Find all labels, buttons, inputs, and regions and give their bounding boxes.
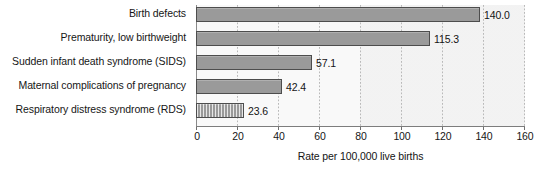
value-label-sids: 57.1 xyxy=(316,58,336,69)
value-label-rds: 23.6 xyxy=(248,106,268,117)
category-label-prematurity: Prematurity, low birthweight xyxy=(0,32,186,43)
gridline-100 xyxy=(401,5,402,127)
tick-label-100: 100 xyxy=(393,130,410,143)
category-label-sids: Sudden infant death syndrome (SIDS) xyxy=(0,56,186,67)
gridline-80 xyxy=(360,5,361,127)
x-axis-title: Rate per 100,000 live births xyxy=(196,150,525,163)
tick-label-0: 0 xyxy=(194,130,200,143)
bar-sids xyxy=(196,55,312,70)
bar-rds xyxy=(196,103,244,118)
gridline-160 xyxy=(524,5,525,127)
category-label-maternal-complications: Maternal complications of pregnancy xyxy=(0,80,186,91)
tick-label-60: 60 xyxy=(314,130,325,143)
gridline-120 xyxy=(442,5,443,127)
tick-label-80: 80 xyxy=(355,130,366,143)
value-label-prematurity: 115.3 xyxy=(434,34,459,45)
value-label-birth-defects: 140.0 xyxy=(484,10,510,21)
category-label-rds: Respiratory distress syndrome (RDS) xyxy=(0,104,186,115)
tick-label-140: 140 xyxy=(475,130,492,143)
bar-prematurity xyxy=(196,31,430,46)
gridline-140 xyxy=(483,5,484,127)
category-axis-labels: Birth defects Prematurity, low birthweig… xyxy=(0,5,191,127)
tick-label-160: 160 xyxy=(516,130,533,143)
bar-birth-defects xyxy=(196,7,480,22)
bar-maternal-complications xyxy=(196,79,282,94)
value-label-maternal-complications: 42.4 xyxy=(286,82,306,93)
x-axis-tick-labels: 0 20 40 60 80 100 120 140 160 xyxy=(0,130,538,146)
bar-chart: Birth defects Prematurity, low birthweig… xyxy=(0,0,538,173)
tick-label-20: 20 xyxy=(232,130,243,143)
tick-label-120: 120 xyxy=(434,130,451,143)
plot-area xyxy=(196,5,525,127)
category-label-birth-defects: Birth defects xyxy=(0,8,186,19)
tick-label-40: 40 xyxy=(273,130,284,143)
